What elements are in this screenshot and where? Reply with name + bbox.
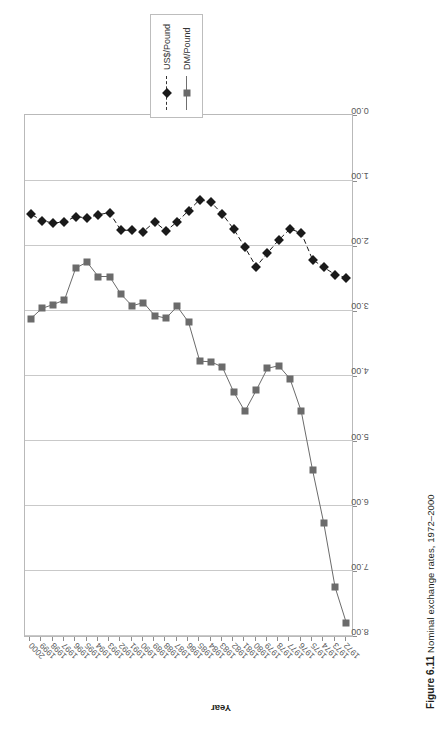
data-point-marker: [230, 388, 237, 395]
data-point-marker: [140, 299, 147, 306]
year-tick: [334, 637, 335, 641]
year-tick: [288, 637, 289, 641]
series-lines: [25, 115, 352, 636]
data-point-marker: [275, 362, 282, 369]
year-tick: [221, 637, 222, 641]
chart-legend: US$/Pound DM/Pound: [150, 14, 203, 118]
value-tick-label: 8.00: [351, 627, 369, 637]
square-marker-icon: [181, 76, 193, 110]
data-point-marker: [50, 301, 57, 308]
value-tick-label: 5.00: [351, 432, 369, 442]
series-line-dmpound: [31, 262, 347, 623]
year-tick: [29, 637, 30, 641]
value-tick-label: 3.00: [351, 301, 369, 311]
value-tick-label: 1.00: [351, 171, 369, 181]
figure-rotation-wrapper: 8.007.006.005.004.003.002.001.000.00 197…: [0, 0, 442, 729]
year-tick: [86, 637, 87, 641]
year-tick: [187, 637, 188, 641]
data-point-marker: [264, 365, 271, 372]
year-tick: [345, 637, 346, 641]
year-tick: [300, 637, 301, 641]
data-point-marker: [208, 358, 215, 365]
plot-area: [24, 114, 353, 637]
year-tick: [266, 637, 267, 641]
data-point-marker: [162, 315, 169, 322]
figure-number: Figure 6.11: [425, 656, 436, 709]
figure-container: 8.007.006.005.004.003.002.001.000.00 197…: [0, 0, 442, 729]
data-point-marker: [61, 296, 68, 303]
year-tick: [164, 637, 165, 641]
year-tick: [108, 637, 109, 641]
data-point-marker: [241, 408, 248, 415]
year-tick: [74, 637, 75, 641]
data-point-marker: [151, 312, 158, 319]
year-tick: [255, 637, 256, 641]
data-point-marker: [129, 302, 136, 309]
value-tick-label: 7.00: [351, 562, 369, 572]
year-tick: [232, 637, 233, 641]
value-tick: [353, 311, 357, 312]
data-point-marker: [196, 358, 203, 365]
data-point-marker: [84, 259, 91, 266]
data-point-marker: [27, 315, 34, 322]
data-point-marker: [298, 408, 305, 415]
data-point-marker: [309, 466, 316, 473]
data-point-marker: [38, 305, 45, 312]
data-point-marker: [320, 520, 327, 527]
data-point-marker: [253, 387, 260, 394]
value-tick-label: 0.00: [351, 106, 369, 116]
year-tick: [97, 637, 98, 641]
year-tick: [142, 637, 143, 641]
data-point-marker: [106, 273, 113, 280]
year-axis: 1972197319741975197619771978197919801981…: [24, 637, 353, 689]
legend-label-dm-pound: DM/Pound: [182, 28, 192, 71]
value-tick: [353, 376, 357, 377]
legend-label-us-pound: US$/Pound: [162, 24, 172, 70]
year-tick: [311, 637, 312, 641]
value-tick-label: 4.00: [351, 367, 369, 377]
year-tick: [119, 637, 120, 641]
year-tick: [153, 637, 154, 641]
data-point-marker: [219, 364, 226, 371]
value-tick-label: 6.00: [351, 497, 369, 507]
data-point-marker: [95, 273, 102, 280]
year-tick: [176, 637, 177, 641]
figure-caption-text: Nominal exchange rates, 1972–2000: [425, 494, 436, 653]
year-tick: [40, 637, 41, 641]
year-tick: [131, 637, 132, 641]
year-tick: [322, 637, 323, 641]
axis-title-year: Year: [211, 703, 231, 714]
year-tick: [63, 637, 64, 641]
diamond-marker-icon: [161, 76, 173, 110]
year-tick: [243, 637, 244, 641]
legend-item-dm-pound[interactable]: DM/Pound: [178, 24, 195, 110]
value-axis: 8.007.006.005.004.003.002.001.000.00: [353, 114, 399, 637]
data-point-marker: [117, 291, 124, 298]
year-tick: [198, 637, 199, 641]
legend-item-us-pound[interactable]: US$/Pound: [158, 24, 175, 110]
data-point-marker: [343, 619, 350, 626]
data-point-marker: [332, 584, 339, 591]
year-tick: [210, 637, 211, 641]
data-point-marker: [174, 303, 181, 310]
data-point-marker: [286, 375, 293, 382]
year-tick: [52, 637, 53, 641]
data-point-marker: [72, 265, 79, 272]
year-tick: [277, 637, 278, 641]
figure-caption: Figure 6.11 Nominal exchange rates, 1972…: [425, 494, 436, 709]
data-point-marker: [185, 319, 192, 326]
value-tick-label: 2.00: [351, 236, 369, 246]
